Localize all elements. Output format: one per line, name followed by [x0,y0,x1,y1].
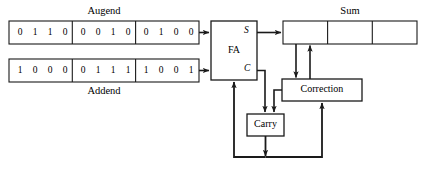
augend-bit: 0 [140,28,152,38]
addend-bit: 0 [59,66,71,76]
addend-bit: 1 [107,66,119,76]
arrow-correction-to-carry-register [274,90,282,112]
carry-label: Carry [247,119,284,129]
bcd-adder-diagram: Augend 0 1 1 0 0 0 1 0 0 1 0 0 1 0 0 0 0… [0,0,427,171]
augend-bit: 1 [29,28,41,38]
augend-bit: 0 [92,28,104,38]
sum-caption: Sum [283,6,417,17]
augend-bit: 1 [155,28,167,38]
addend-bit: 1 [92,66,104,76]
addend-bit: 1 [185,66,197,76]
addend-bit: 1 [140,66,152,76]
augend-bit: 1 [44,28,56,38]
fa-carry-port-label: C [244,64,250,74]
fa-sum-port-label: S [244,26,249,36]
augend-bit: 0 [77,28,89,38]
addend-bit: 0 [155,66,167,76]
addend-bit: 0 [29,66,41,76]
augend-bit: 0 [185,28,197,38]
augend-bit: 0 [14,28,26,38]
augend-bit: 0 [122,28,134,38]
augend-bit: 0 [170,28,182,38]
addend-bit: 0 [170,66,182,76]
addend-caption: Addend [9,86,199,97]
augend-bit: 0 [59,28,71,38]
addend-bit: 0 [44,66,56,76]
augend-caption: Augend [9,6,199,17]
augend-bit: 1 [107,28,119,38]
sum-register-box [283,21,417,44]
addend-bit: 1 [14,66,26,76]
full-adder-label: FA [211,45,257,55]
correction-label: Correction [282,84,362,94]
arrow-fa-carry-to-carry-register [257,71,265,113]
addend-bit: 0 [77,66,89,76]
addend-bit: 1 [122,66,134,76]
